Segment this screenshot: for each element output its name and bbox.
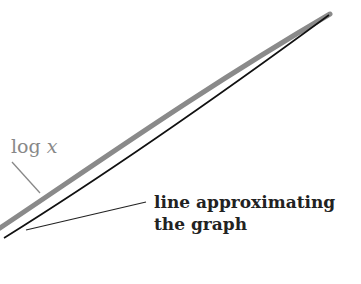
log-label-leader xyxy=(12,162,40,193)
log-text: log xyxy=(11,135,41,157)
log-x-label: log x xyxy=(11,137,57,156)
approx-label-leader xyxy=(26,202,146,230)
approx-label-line-2: the graph xyxy=(154,213,335,235)
approx-label-line-1: line approximating xyxy=(154,191,335,213)
x-variable: x xyxy=(47,135,58,157)
approximating-line-label: line approximating the graph xyxy=(154,191,335,235)
